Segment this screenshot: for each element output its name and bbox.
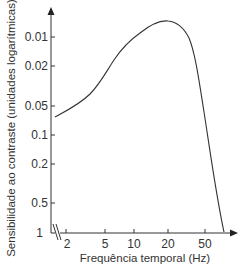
x-tick-label: 5 — [102, 237, 109, 251]
x-ticks — [66, 229, 205, 233]
y-tick-label: 0.5 — [31, 196, 48, 210]
x-tick-label: 2 — [64, 237, 71, 251]
x-tick-label: 20 — [161, 237, 175, 251]
axis-break-icon — [53, 224, 61, 240]
contrast-sensitivity-chart: 0.01 0.02 0.05 0.1 0.2 0.5 1 2 5 10 20 5… — [0, 0, 245, 270]
y-tick-label: 0.1 — [31, 128, 48, 142]
y-tick-label: 1 — [36, 226, 43, 240]
y-ticks — [51, 37, 55, 203]
y-tick-label: 0.05 — [25, 99, 49, 113]
y-tick-label: 0.02 — [25, 59, 49, 73]
y-axis-label: Sensibilidade ao contraste (unidades log… — [5, 0, 17, 257]
x-tick-labels: 2 5 10 20 50 — [64, 237, 212, 251]
sensitivity-curve — [55, 21, 224, 232]
y-axis-arrow-icon — [48, 7, 55, 15]
y-tick-label: 0.2 — [31, 157, 48, 171]
y-tick-labels: 0.01 0.02 0.05 0.1 0.2 0.5 1 — [25, 30, 49, 240]
x-axis-label: Frequência temporal (Hz) — [80, 252, 211, 264]
y-tick-label: 0.01 — [25, 30, 49, 44]
x-axis-arrow-icon — [230, 230, 238, 237]
x-tick-label: 10 — [127, 237, 141, 251]
x-tick-label: 50 — [198, 237, 212, 251]
